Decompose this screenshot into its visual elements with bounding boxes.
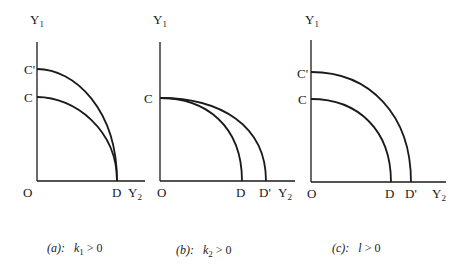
intercept-c: C — [144, 91, 153, 106]
caption-c: (c): l > 0 — [332, 241, 380, 255]
caption-b: (b): k2 > 0 — [176, 243, 232, 259]
curve-c-d-prime — [160, 98, 266, 181]
intercept-d-prime: D' — [405, 186, 417, 201]
x-axis-label: Y2 — [432, 186, 446, 203]
y-axis-label: Y1 — [305, 12, 319, 29]
curve-c-d — [160, 98, 242, 181]
curve-c-prime-d — [37, 69, 117, 181]
panel-c: Y1 C' C O D D' Y2 — [297, 12, 446, 203]
curve-c-d — [37, 97, 117, 181]
intercept-d: D — [385, 186, 394, 201]
curve-c-prime-d-prime — [311, 72, 411, 182]
panel-b: Y1 C O D D' Y2 — [144, 12, 295, 202]
origin-label: O — [307, 186, 316, 201]
x-axis-label: Y2 — [128, 185, 142, 202]
intercept-d: D — [112, 185, 121, 200]
curve-c-d — [311, 99, 391, 182]
intercept-c-prime: C' — [297, 66, 308, 81]
intercept-d: D — [236, 185, 245, 200]
intercept-c: C — [298, 92, 307, 107]
caption-a: (a): k1 > 0 — [47, 241, 103, 257]
x-axis-label: Y2 — [278, 185, 292, 202]
panel-a: Y1 C' C O D Y2 — [23, 12, 145, 202]
origin-label: O — [157, 185, 166, 200]
origin-label: O — [23, 185, 32, 200]
intercept-c: C — [24, 90, 33, 105]
intercept-d-prime: D' — [259, 185, 271, 200]
production-possibility-diagram: Y1 C' C O D Y2 Y1 C O D D' Y2 Y1 C' C O … — [0, 0, 469, 277]
y-axis-label: Y1 — [30, 12, 44, 29]
y-axis-label: Y1 — [153, 12, 167, 29]
intercept-c-prime: C' — [24, 62, 35, 77]
